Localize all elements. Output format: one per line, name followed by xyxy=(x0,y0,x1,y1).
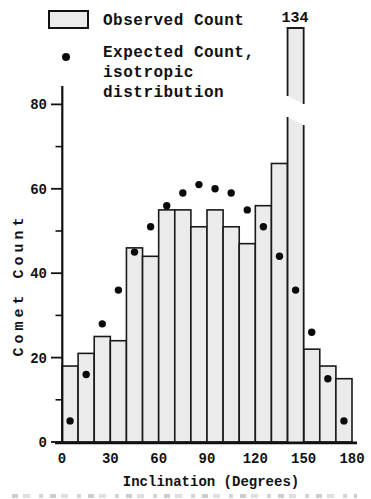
expected-count-dot xyxy=(244,206,251,213)
broken-bar-lower-segment xyxy=(288,117,304,442)
observed-bar xyxy=(271,163,287,442)
observed-bar xyxy=(110,341,126,442)
x-tick-label: 0 xyxy=(58,451,66,467)
expected-count-dot xyxy=(82,371,89,378)
observed-bar xyxy=(304,349,320,442)
x-tick-label: 150 xyxy=(291,451,316,467)
expected-count-dot xyxy=(99,320,106,327)
expected-count-dot xyxy=(66,417,73,424)
observed-bar xyxy=(126,248,142,442)
expected-count-dot xyxy=(163,202,170,209)
observed-bar xyxy=(239,244,255,442)
legend-observed-swatch-icon xyxy=(48,10,89,29)
expected-count-dot xyxy=(260,223,267,230)
cropped-caption-remnant xyxy=(12,494,357,498)
observed-bar xyxy=(223,227,239,442)
y-tick-label: 80 xyxy=(30,97,47,113)
observed-bar xyxy=(175,210,191,442)
legend-observed-label: Observed Count xyxy=(103,12,244,30)
observed-bar xyxy=(207,210,223,442)
legend-expected-label: Expected Count, isotropic distribution xyxy=(103,43,255,103)
y-tick-label: 60 xyxy=(30,182,47,198)
expected-count-dot xyxy=(131,248,138,255)
y-tick-label: 0 xyxy=(39,435,47,451)
x-axis-title: Inclination (Degrees) xyxy=(123,474,299,490)
observed-bar xyxy=(191,227,207,442)
legend-expected-line-3: distribution xyxy=(103,83,255,103)
legend-expected-line-2: isotropic xyxy=(103,63,255,83)
legend-expected-line-1: Expected Count, xyxy=(103,43,255,63)
expected-count-dot xyxy=(340,417,347,424)
observed-bar xyxy=(62,366,78,442)
observed-bar xyxy=(94,337,110,443)
broken-bar-value-label: 134 xyxy=(281,10,308,27)
x-tick-label: 60 xyxy=(150,451,167,467)
x-tick-label: 30 xyxy=(102,451,119,467)
x-tick-label: 90 xyxy=(199,451,216,467)
y-tick-label: 40 xyxy=(30,266,47,282)
broken-bar-upper-segment xyxy=(288,28,304,104)
comet-inclination-histogram-figure: 0204060800306090120150180 Observed Count… xyxy=(0,0,371,499)
observed-bar xyxy=(336,379,352,442)
observed-bar xyxy=(159,210,175,442)
expected-count-dot xyxy=(276,253,283,260)
expected-count-dot xyxy=(308,329,315,336)
expected-count-dot xyxy=(147,223,154,230)
expected-count-dot xyxy=(227,189,234,196)
x-tick-label: 180 xyxy=(339,451,364,467)
expected-count-dot xyxy=(179,189,186,196)
expected-count-dot xyxy=(292,286,299,293)
expected-count-dot xyxy=(115,286,122,293)
y-tick-label: 20 xyxy=(30,351,47,367)
expected-count-dot xyxy=(195,181,202,188)
expected-count-dot xyxy=(211,185,218,192)
expected-count-dot xyxy=(324,375,331,382)
observed-bar xyxy=(78,353,94,442)
x-tick-label: 120 xyxy=(243,451,268,467)
y-axis-title: Comet Count xyxy=(11,213,28,356)
observed-bar xyxy=(255,206,271,442)
legend-expected-dot-icon xyxy=(62,53,70,61)
observed-bar xyxy=(143,256,159,442)
